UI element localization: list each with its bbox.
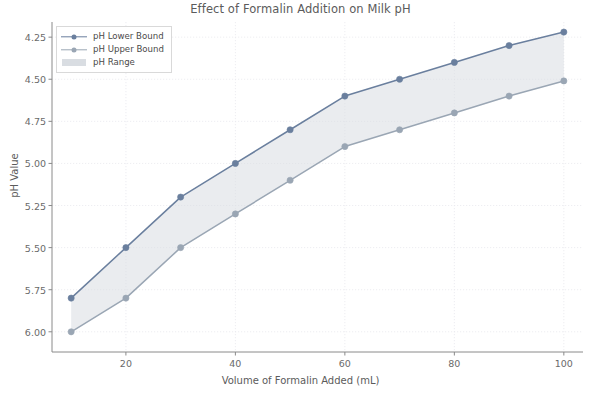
data-point	[232, 160, 238, 166]
chart-figure: Effect of Formalin Addition on Milk pH p…	[0, 0, 601, 397]
legend-marker-lower-bound	[61, 31, 87, 42]
legend-item-ph-range: pH Range	[61, 56, 164, 69]
legend-marker-upper-bound	[61, 44, 87, 55]
data-point	[506, 42, 512, 48]
data-point	[287, 177, 293, 183]
legend-label-lower-bound: pH Lower Bound	[93, 30, 164, 42]
data-point	[451, 110, 457, 116]
data-point	[232, 211, 238, 217]
data-point	[342, 143, 348, 149]
ph-range-fill	[71, 32, 564, 332]
data-point	[287, 127, 293, 133]
chart-legend: pH Lower Bound pH Upper Bound pH Range	[56, 26, 172, 73]
data-point	[178, 194, 184, 200]
legend-label-upper-bound: pH Upper Bound	[93, 43, 164, 55]
legend-patch-ph-range	[61, 57, 87, 68]
data-point	[397, 76, 403, 82]
legend-label-ph-range: pH Range	[93, 56, 135, 68]
data-point	[397, 127, 403, 133]
data-point	[123, 245, 129, 251]
data-point	[561, 78, 567, 84]
data-point	[451, 59, 457, 65]
data-point	[342, 93, 348, 99]
data-point	[123, 295, 129, 301]
legend-item-lower-bound: pH Lower Bound	[61, 30, 164, 43]
data-point	[68, 329, 74, 335]
data-point	[561, 29, 567, 35]
legend-item-upper-bound: pH Upper Bound	[61, 43, 164, 56]
data-point	[68, 295, 74, 301]
data-point	[178, 245, 184, 251]
data-point	[506, 93, 512, 99]
